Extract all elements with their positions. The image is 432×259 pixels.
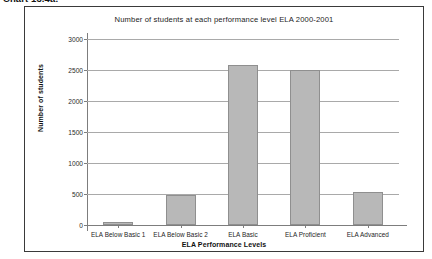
- chart-title: Number of students at each performance l…: [25, 15, 423, 24]
- bar-4: [290, 70, 320, 225]
- y-tick-label: 3000: [68, 36, 83, 43]
- y-tick-label: 500: [72, 191, 83, 198]
- x-tick-label: ELA Below Basic 1: [91, 231, 146, 238]
- x-tick-label: ELA Below Basic 2: [153, 231, 208, 238]
- y-tick-mark: [84, 39, 87, 40]
- y-tick-mark: [84, 101, 87, 102]
- y-tick-label: 1500: [68, 129, 83, 136]
- y-axis-title: Number of students: [37, 64, 44, 132]
- y-tick-mark: [84, 132, 87, 133]
- x-tick-label: ELA Basic: [228, 231, 258, 238]
- plot-area: 050010001500200025003000: [87, 39, 399, 225]
- x-tick-label: ELA Proficient: [285, 231, 326, 238]
- x-tick-mark: [368, 225, 369, 228]
- y-tick-label: 2500: [68, 67, 83, 74]
- y-tick-mark: [84, 225, 87, 226]
- bar-2: [166, 195, 196, 225]
- bar-3: [228, 65, 258, 225]
- bar-5: [353, 192, 383, 225]
- gridline: [87, 39, 399, 40]
- chart-figure-frame: Number of students at each performance l…: [24, 6, 424, 252]
- x-tick-mark: [118, 225, 119, 228]
- x-axis-line: [87, 225, 407, 226]
- y-tick-label: 2000: [68, 98, 83, 105]
- y-tick-label: 0: [79, 222, 83, 229]
- y-tick-mark: [84, 163, 87, 164]
- x-tick-label: ELA Advanced: [347, 231, 389, 238]
- y-tick-mark: [84, 194, 87, 195]
- x-tick-mark: [305, 225, 306, 228]
- y-tick-mark: [84, 70, 87, 71]
- x-axis-title: ELA Performance Levels: [25, 241, 423, 248]
- x-tick-mark: [181, 225, 182, 228]
- x-tick-mark: [243, 225, 244, 228]
- figure-caption: Chart 13.4a:: [3, 0, 59, 4]
- y-tick-label: 1000: [68, 160, 83, 167]
